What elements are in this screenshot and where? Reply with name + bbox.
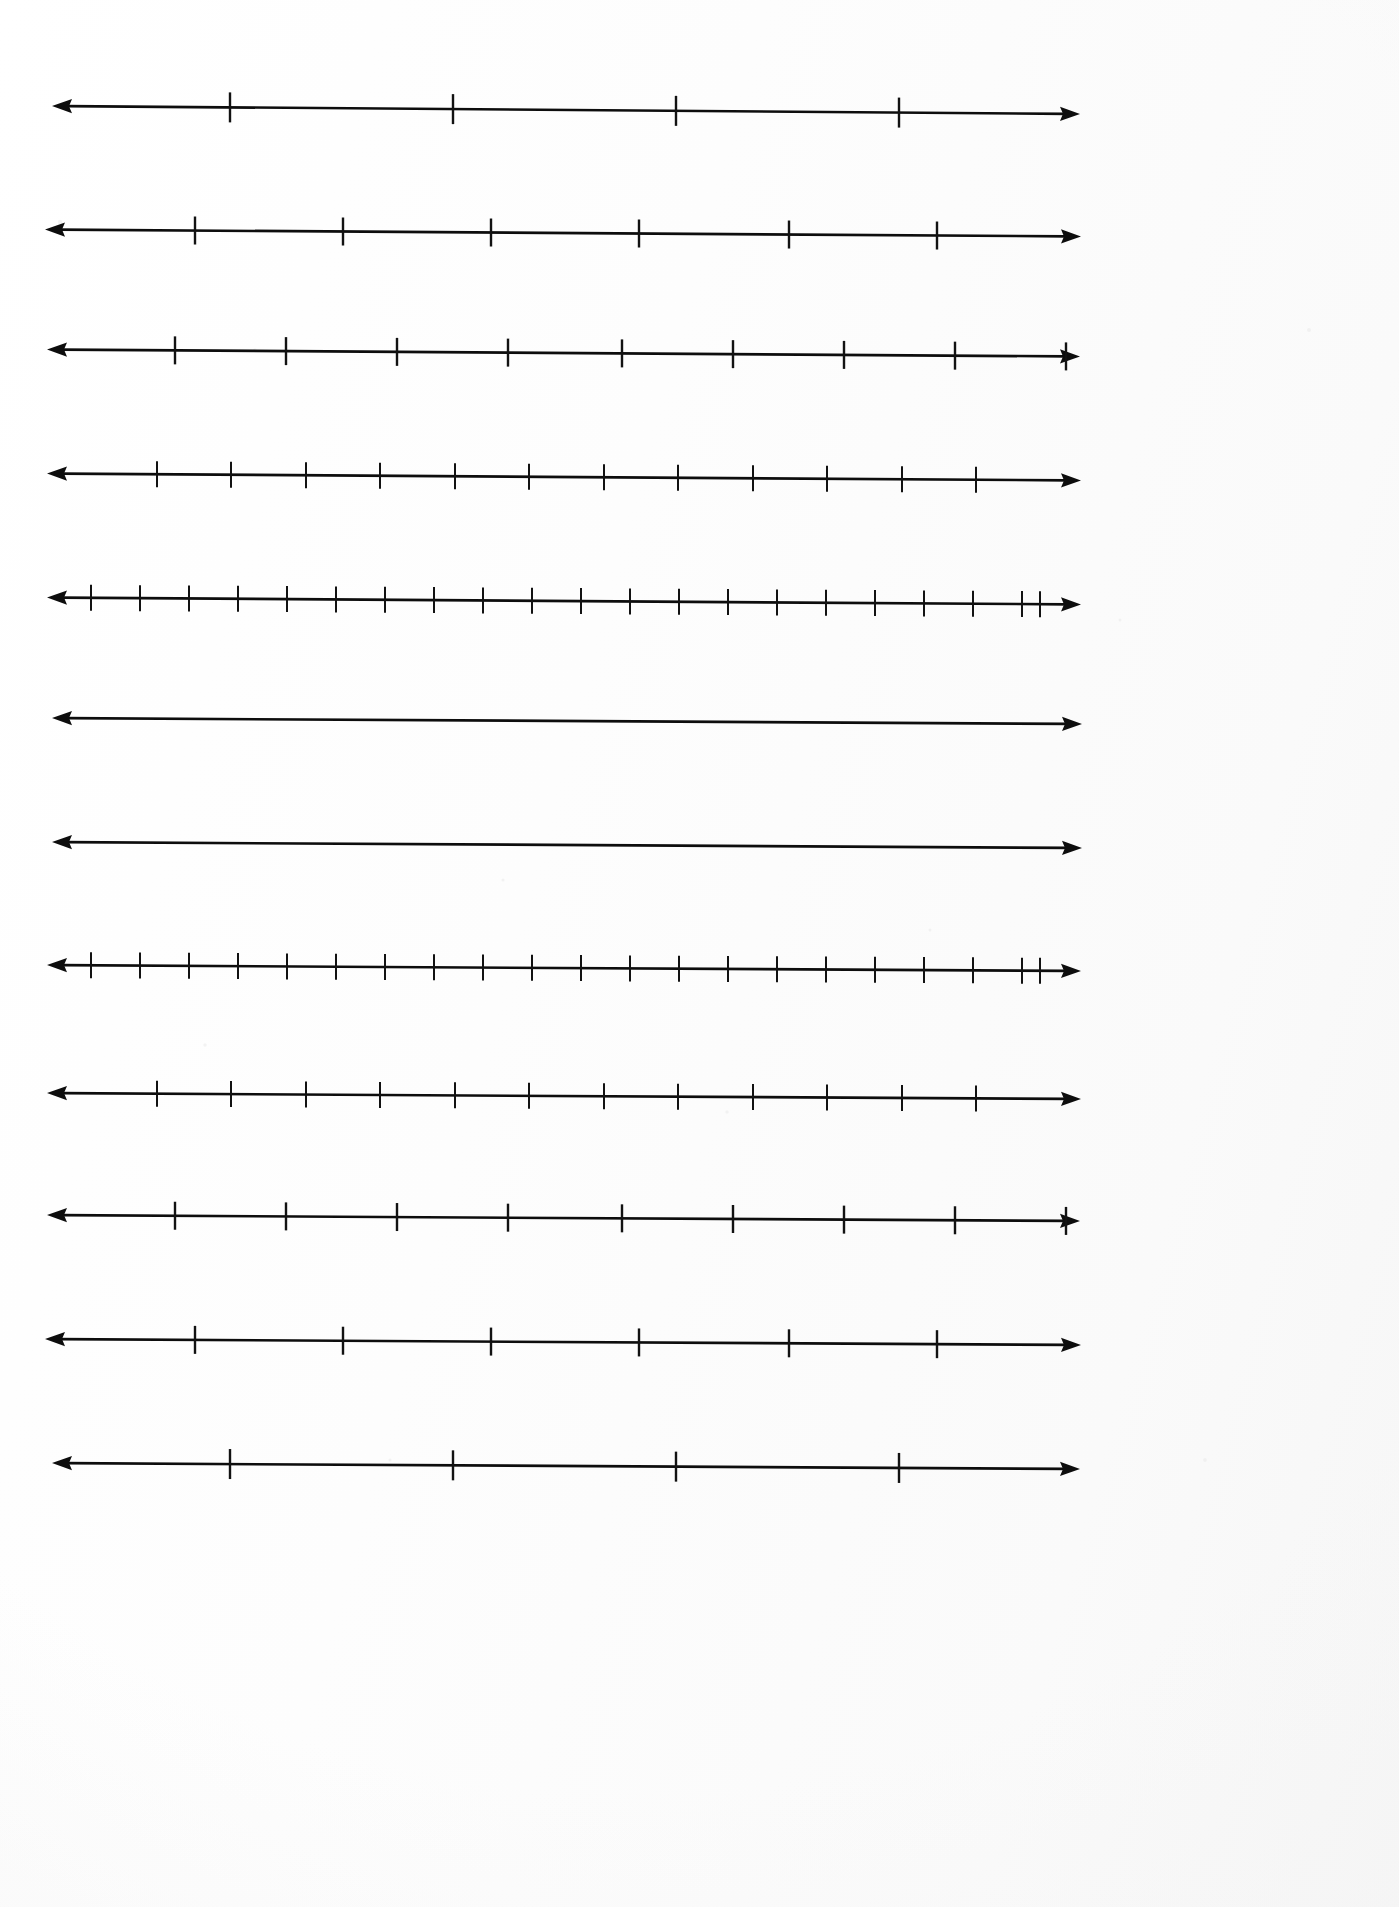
number-line-4 [0, 432, 1399, 522]
arrow-head-left-icon [52, 1456, 72, 1470]
number-line-7 [0, 800, 1399, 890]
axis-shaft [66, 1463, 1066, 1469]
arrow-head-right-icon [1061, 1338, 1081, 1352]
arrow-head-right-icon [1060, 1214, 1080, 1228]
number-line-5 [0, 556, 1399, 646]
axis-shaft [61, 1093, 1067, 1099]
arrow-head-right-icon [1061, 964, 1081, 978]
axis-shaft [61, 474, 1067, 481]
number-line-1 [0, 65, 1399, 155]
arrow-head-right-icon [1061, 1092, 1081, 1106]
axis-shaft [66, 718, 1068, 724]
number-line-12 [0, 1421, 1399, 1511]
number-line-8 [0, 923, 1399, 1013]
number-line-11 [0, 1297, 1399, 1387]
axis-shaft [59, 1339, 1067, 1345]
axis-shaft [61, 350, 1066, 357]
arrow-head-right-icon [1062, 717, 1082, 731]
number-line-10 [0, 1173, 1399, 1263]
arrow-head-right-icon [1060, 349, 1080, 363]
number-line-3 [0, 308, 1399, 398]
axis-shaft [61, 598, 1067, 605]
arrow-head-right-icon [1062, 841, 1082, 855]
axis-shaft [61, 965, 1067, 971]
arrow-head-right-icon [1061, 229, 1081, 243]
axis-shaft [66, 842, 1068, 848]
arrow-head-left-icon [47, 1208, 67, 1222]
number-line-9 [0, 1051, 1399, 1141]
axis-shaft [61, 1215, 1066, 1221]
axis-shaft [59, 230, 1067, 237]
arrow-head-left-icon [47, 1086, 67, 1100]
arrow-head-left-icon [47, 958, 67, 972]
number-line-6 [0, 676, 1399, 766]
arrow-head-left-icon [45, 1332, 65, 1346]
arrow-head-right-icon [1061, 597, 1081, 611]
arrow-head-left-icon [47, 342, 67, 356]
number-line-2 [0, 188, 1399, 278]
arrow-head-left-icon [52, 711, 72, 725]
worksheet-page [0, 0, 1399, 1907]
arrow-head-left-icon [47, 590, 67, 604]
axis-shaft [66, 106, 1066, 114]
arrow-head-left-icon [52, 835, 72, 849]
arrow-head-right-icon [1060, 1462, 1080, 1476]
arrow-head-right-icon [1060, 107, 1080, 121]
arrow-head-left-icon [52, 99, 72, 113]
arrow-head-left-icon [45, 222, 65, 236]
arrow-head-right-icon [1061, 473, 1081, 487]
arrow-head-left-icon [47, 466, 67, 480]
